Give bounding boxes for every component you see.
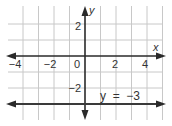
y-axis-label: y	[88, 4, 96, 16]
equation-label: y = −3	[100, 89, 140, 103]
x-axis-label: x	[152, 41, 159, 53]
x-tick-label-2: 2	[112, 58, 118, 70]
y-tick-label-2: 2	[75, 20, 81, 32]
y-axis-down-arrow-icon	[82, 110, 89, 120]
y-axis-up-arrow-icon	[82, 6, 89, 16]
line-right-arrow-icon	[156, 101, 166, 108]
x-tick-label-neg4: −4	[9, 58, 22, 70]
x-tick-label-neg2: −2	[44, 58, 57, 70]
x-axis-right-arrow-icon	[156, 53, 166, 60]
coordinate-graph: y x −4 −2 0 2 4 2 −2 y = −3	[0, 0, 172, 126]
x-tick-label-4: 4	[142, 58, 148, 70]
y-axis	[82, 6, 89, 120]
line-y-equals-neg3	[6, 101, 166, 108]
y-tick-label-neg2: −2	[68, 82, 81, 94]
x-tick-label-0: 0	[74, 58, 80, 70]
line-left-arrow-icon	[6, 101, 16, 108]
